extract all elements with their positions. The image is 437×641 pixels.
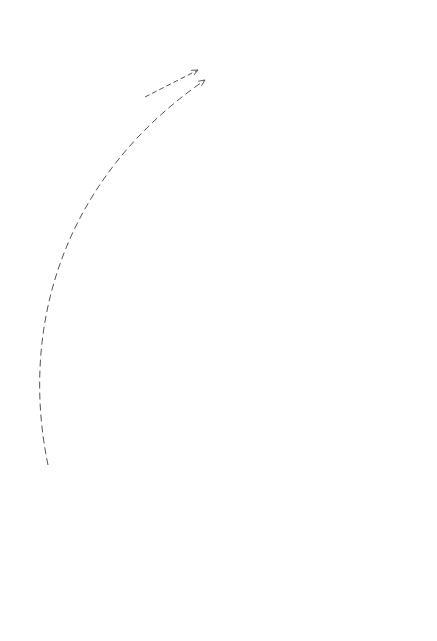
antigen-path — [40, 80, 205, 465]
helper-arrow — [145, 70, 198, 97]
t-cell-diagram — [0, 0, 437, 641]
